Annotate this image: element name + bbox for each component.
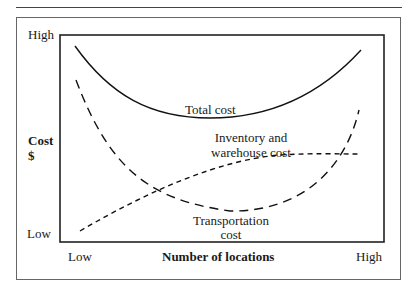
total-cost-label: Total cost <box>185 103 236 117</box>
x-axis-low-label: Low <box>68 250 92 264</box>
transportation-label-line2: cost <box>186 228 276 242</box>
inventory-label-line2: warehouse cost <box>196 146 306 160</box>
transportation-label-line1: Transportation <box>186 214 276 228</box>
x-axis-title: Number of locations <box>162 250 274 264</box>
y-axis-title-cost: Cost <box>28 134 53 148</box>
x-axis-high-label: High <box>356 250 382 264</box>
y-axis-title-dollar: $ <box>28 149 35 163</box>
y-axis-high-label: High <box>28 28 54 42</box>
y-axis-low-label: Low <box>27 227 51 241</box>
inventory-label-line1: Inventory and <box>196 131 306 145</box>
